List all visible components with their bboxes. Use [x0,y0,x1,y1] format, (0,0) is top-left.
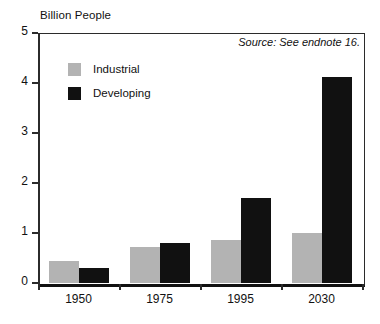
legend-swatch-industrial [68,63,81,76]
bar-developing-1950 [79,268,109,283]
y-tick-label: 2 [0,174,28,188]
legend-swatch-developing [68,87,81,100]
x-axis-label-1995: 1995 [227,292,254,306]
legend: Industrial Developing [68,57,151,105]
legend-item-industrial: Industrial [68,57,151,81]
x-tick-mark [281,284,283,290]
bar-developing-1995 [241,198,271,283]
bar-industrial-2030 [292,233,322,283]
y-tick-label: 3 [0,124,28,138]
x-axis-label-1950: 1950 [65,292,92,306]
bar-chart: Billion People 012345 1950197519952030 I… [0,0,380,324]
bar-developing-1975 [160,243,190,283]
x-tick-mark [38,284,40,290]
y-tick-label: 0 [0,274,28,288]
x-axis-label-2030: 2030 [308,292,335,306]
y-axis-title: Billion People [40,9,111,21]
x-axis-label-1975: 1975 [146,292,173,306]
y-tick-label: 5 [0,24,28,38]
legend-item-developing: Developing [68,81,151,105]
y-tick-label: 1 [0,224,28,238]
x-tick-mark [119,284,121,290]
bar-industrial-1995 [211,240,241,284]
y-tick-label: 4 [0,74,28,88]
source-note: Source: See endnote 16. [238,36,360,48]
bar-developing-2030 [322,77,352,284]
x-tick-mark [200,284,202,290]
bar-industrial-1975 [130,247,160,283]
x-tick-mark [362,284,364,290]
legend-label-developing: Developing [93,87,151,99]
legend-label-industrial: Industrial [93,63,140,75]
bar-industrial-1950 [49,261,79,283]
